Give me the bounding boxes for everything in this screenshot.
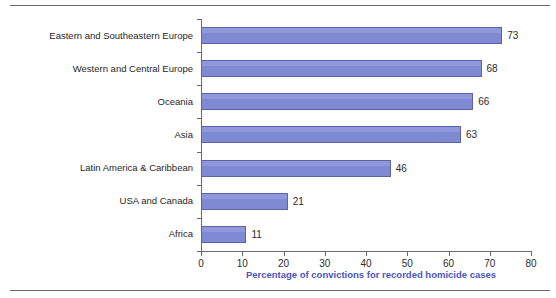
bar-gloss [202,194,287,199]
x-axis-tick [325,251,326,256]
bar-value-label: 63 [466,126,477,143]
x-axis-tick-label: 40 [360,258,371,269]
bar-value-label: 46 [396,160,407,177]
category-label: Oceania [3,96,193,108]
x-axis-tick-label: 10 [237,258,248,269]
y-axis-tick [197,185,201,186]
bar[interactable] [201,27,502,44]
plot-area: 73686663462111 01020304050607080 [201,19,531,251]
bar-row: 11 [201,218,531,251]
x-axis-tick [284,251,285,256]
top-divider-rule [10,5,550,6]
bar-value-label: 66 [478,93,489,110]
x-axis-tick [449,251,450,256]
x-axis-tick [490,251,491,256]
y-axis-tick [197,85,201,86]
y-axis-tick [197,52,201,53]
bar-row: 68 [201,52,531,85]
bar-gloss [202,61,481,66]
x-axis-tick-label: 60 [443,258,454,269]
x-axis-tick [366,251,367,256]
bar-gloss [202,28,501,33]
bar[interactable] [201,160,391,177]
category-label: Africa [3,228,193,240]
bar[interactable] [201,126,461,143]
x-axis-title: Percentage of convictions for recorded h… [201,269,541,280]
bar-value-label: 11 [251,226,261,243]
y-axis-tick [197,118,201,119]
category-label: Latin America & Caribbean [3,162,193,174]
category-label: Asia [3,129,193,141]
x-axis-tick-label: 50 [402,258,413,269]
bar-row: 21 [201,185,531,218]
x-axis-tick-label: 0 [198,258,204,269]
bar-value-label: 73 [507,27,518,44]
x-axis-tick-label: 80 [525,258,536,269]
bar-value-label: 21 [293,193,304,210]
bar-gloss [202,94,472,99]
bar-gloss [202,127,460,132]
y-axis-tick [197,19,201,20]
bar[interactable] [201,193,288,210]
category-label: Eastern and Southeastern Europe [3,30,193,42]
bottom-divider-rule [10,290,550,291]
bar[interactable] [201,226,246,243]
x-axis-tick-label: 20 [278,258,289,269]
bar-row: 73 [201,19,531,52]
bar[interactable] [201,60,482,77]
x-axis-tick [407,251,408,256]
y-axis-tick [197,218,201,219]
bar[interactable] [201,93,473,110]
bar-value-label: 68 [487,60,498,77]
x-axis-tick [242,251,243,256]
bar-row: 63 [201,118,531,151]
x-axis-tick [201,251,202,256]
x-axis-tick-label: 30 [319,258,330,269]
bar-row: 66 [201,85,531,118]
bar-gloss [202,161,390,166]
y-axis-tick [197,152,201,153]
x-axis-tick [531,251,532,256]
category-axis-labels: Eastern and Southeastern EuropeWestern a… [0,19,193,251]
category-label: Western and Central Europe [3,63,193,75]
chart-figure: Eastern and Southeastern EuropeWestern a… [0,0,556,298]
x-axis-tick-label: 70 [484,258,495,269]
category-label: USA and Canada [3,195,193,207]
bar-gloss [202,227,245,232]
bar-row: 46 [201,152,531,185]
